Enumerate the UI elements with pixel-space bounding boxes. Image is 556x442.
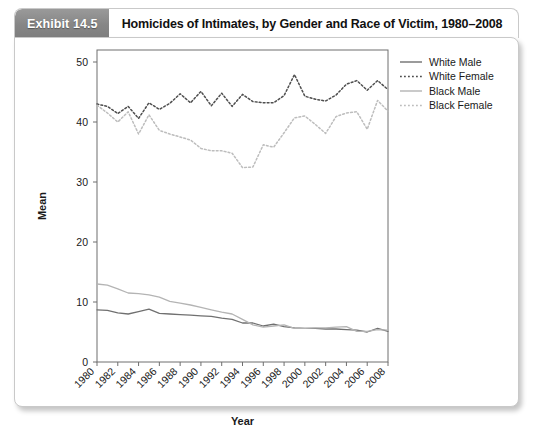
x-axis-title: Year <box>231 415 255 427</box>
exhibit-title: Homicides of Intimates, by Gender and Ra… <box>109 9 518 38</box>
figure-card <box>14 37 519 407</box>
exhibit-number-badge: Exhibit 14.5 <box>15 9 109 38</box>
exhibit-figure-page: Exhibit 14.5 Homicides of Intimates, by … <box>0 0 556 442</box>
exhibit-header: Exhibit 14.5 Homicides of Intimates, by … <box>14 8 519 38</box>
